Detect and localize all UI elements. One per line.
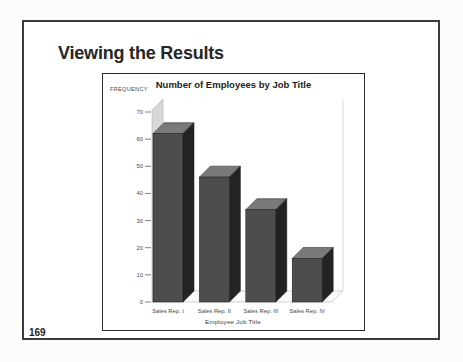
y-tick-label: 70	[137, 109, 143, 115]
slide-title: Viewing the Results	[58, 43, 224, 64]
bar-side	[276, 199, 287, 302]
page-number: 169	[29, 327, 46, 338]
y-tick-label: 40	[137, 190, 143, 196]
category-label: Sales Rep. II	[198, 308, 232, 314]
y-tick-label: 50	[137, 163, 143, 169]
category-label: Sales Rep. I	[152, 308, 184, 314]
y-tick-label: 20	[137, 245, 143, 251]
y-tick-label: 0	[140, 299, 143, 305]
bar-side	[183, 123, 194, 302]
category-label: Sales Rep. III	[243, 308, 278, 314]
x-axis-title: Employee Job Title	[205, 318, 261, 325]
slide-border: Viewing the Results Number of Employees …	[22, 20, 440, 340]
scanned-page: Viewing the Results Number of Employees …	[0, 0, 463, 362]
bar-chart-3d: FREQUENCY 010203040506070Sales Rep. ISal…	[103, 74, 363, 328]
frequency-axis-label: FREQUENCY	[110, 86, 148, 92]
chart-frame: Number of Employees by Job Title FREQUEN…	[102, 73, 365, 331]
bar-front	[292, 259, 322, 302]
category-label: Sales Rep. IV	[289, 308, 325, 314]
plot-area: 010203040506070Sales Rep. ISales Rep. II…	[137, 99, 343, 314]
y-tick-label: 10	[137, 272, 143, 278]
bar-side	[229, 166, 240, 302]
bar-front	[199, 177, 229, 302]
y-tick-label: 30	[137, 218, 143, 224]
bar-front	[153, 134, 183, 302]
y-tick-label: 60	[137, 136, 143, 142]
bar-front	[246, 210, 276, 302]
